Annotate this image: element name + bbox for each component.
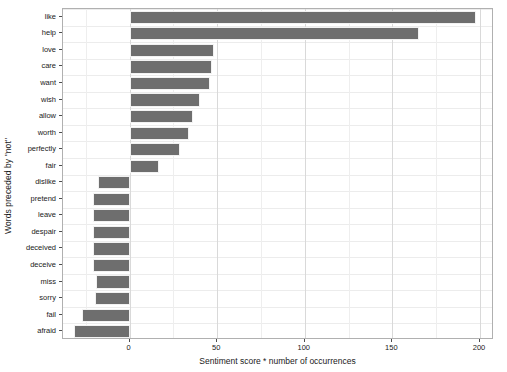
y-axis-tick-text: afraid bbox=[37, 326, 56, 335]
bar bbox=[130, 143, 181, 156]
y-axis-tick-label: fair bbox=[14, 157, 58, 174]
y-axis-tick-text: help bbox=[42, 28, 56, 37]
y-axis-tick-label: leave bbox=[14, 207, 58, 224]
y-axis-tick-text: miss bbox=[41, 277, 56, 286]
bar bbox=[130, 77, 211, 90]
bar bbox=[96, 275, 129, 288]
bar bbox=[130, 110, 193, 123]
y-axis-tick-text: love bbox=[42, 45, 56, 54]
x-axis-tick-mark bbox=[304, 339, 305, 342]
y-axis-tick-label: want bbox=[14, 74, 58, 91]
x-axis-tick-labels: 050100150200 bbox=[62, 343, 493, 355]
y-axis-tick-text: allow bbox=[39, 111, 56, 120]
bar bbox=[93, 242, 130, 255]
bar bbox=[130, 11, 477, 24]
x-axis-tick-label: 200 bbox=[473, 343, 486, 352]
bar bbox=[130, 27, 419, 40]
y-axis-tick-label: fail bbox=[14, 306, 58, 323]
y-axis-tick-text: deceive bbox=[30, 260, 56, 269]
x-axis-title: Sentiment score * number of occurrences bbox=[62, 356, 493, 366]
sentiment-bar-chart: Words preceded by "not" likehelplovecare… bbox=[0, 0, 507, 372]
y-axis-tick-text: like bbox=[45, 12, 56, 21]
x-axis-tick-mark bbox=[479, 339, 480, 342]
y-axis-tick-text: care bbox=[41, 61, 56, 70]
y-axis-tick-label: dislike bbox=[14, 173, 58, 190]
bar bbox=[93, 226, 130, 239]
y-axis-tick-text: want bbox=[40, 78, 56, 87]
y-axis-tick-label: care bbox=[14, 58, 58, 75]
y-axis-tick-text: fair bbox=[46, 161, 56, 170]
y-axis-tick-text: sorry bbox=[39, 293, 56, 302]
x-axis-tick-mark bbox=[391, 339, 392, 342]
x-axis-tick-mark bbox=[216, 339, 217, 342]
y-axis-tick-label: like bbox=[14, 8, 58, 25]
y-axis-tick-text: worth bbox=[38, 128, 56, 137]
y-axis-tick-label: afraid bbox=[14, 322, 58, 339]
y-axis-tick-label: wish bbox=[14, 91, 58, 108]
bar bbox=[93, 193, 130, 206]
x-axis-tick-label: 0 bbox=[126, 343, 130, 352]
bar bbox=[130, 44, 214, 57]
x-axis-tick-label: 50 bbox=[212, 343, 220, 352]
y-axis-tick-label: allow bbox=[14, 107, 58, 124]
y-axis-tick-text: fail bbox=[46, 310, 56, 319]
y-axis-tick-text: wish bbox=[41, 95, 56, 104]
y-axis-tick-label: perfectly bbox=[14, 140, 58, 157]
y-axis-tick-label: pretend bbox=[14, 190, 58, 207]
x-axis-tick-label: 150 bbox=[385, 343, 398, 352]
y-axis-tick-text: perfectly bbox=[28, 144, 56, 153]
bar bbox=[130, 127, 190, 140]
y-axis-tick-label: sorry bbox=[14, 289, 58, 306]
y-axis-tick-text: leave bbox=[38, 210, 56, 219]
bar bbox=[95, 292, 130, 305]
plot-panel bbox=[62, 8, 493, 339]
bar bbox=[74, 325, 130, 338]
bars-layer bbox=[63, 9, 492, 338]
y-axis-tick-labels: likehelplovecarewantwishallowworthperfec… bbox=[14, 8, 58, 339]
bar bbox=[93, 209, 130, 222]
y-axis-tick-label: worth bbox=[14, 124, 58, 141]
x-axis-tick-mark bbox=[129, 339, 130, 342]
y-axis-tick-label: deceive bbox=[14, 256, 58, 273]
y-axis-tick-label: love bbox=[14, 41, 58, 58]
bar bbox=[93, 259, 130, 272]
y-axis-tick-text: deceived bbox=[26, 243, 56, 252]
y-axis-tick-label: despair bbox=[14, 223, 58, 240]
y-axis-tick-text: despair bbox=[31, 227, 56, 236]
bar bbox=[130, 160, 160, 173]
y-axis-tick-text: dislike bbox=[35, 177, 56, 186]
y-axis-tick-text: pretend bbox=[31, 194, 56, 203]
y-axis-tick-label: help bbox=[14, 25, 58, 42]
x-axis-tick-label: 100 bbox=[298, 343, 311, 352]
y-axis-tick-label: miss bbox=[14, 273, 58, 290]
y-axis-tick-label: deceived bbox=[14, 240, 58, 257]
bar bbox=[130, 93, 200, 106]
bar bbox=[98, 176, 130, 189]
bar bbox=[82, 309, 129, 322]
bar bbox=[130, 60, 212, 73]
